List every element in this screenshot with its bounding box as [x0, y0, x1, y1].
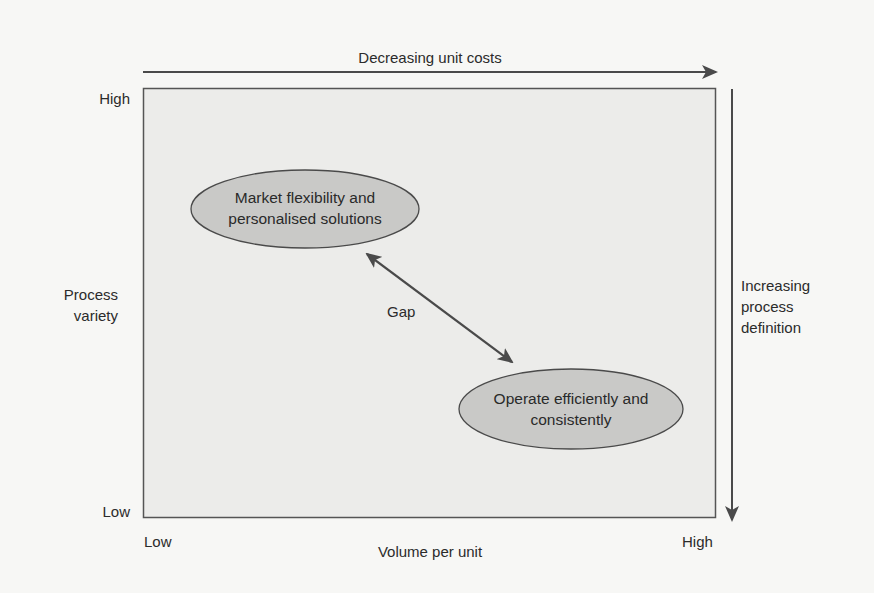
market-flexibility-line-2: personalised solutions	[195, 208, 415, 229]
y-axis-label-line-1: Process	[20, 284, 118, 305]
x-axis-low-label: Low	[144, 532, 172, 551]
diagram-canvas: Decreasing unit costs High Process varie…	[0, 0, 874, 593]
market-flexibility-text: Market flexibility and personalised solu…	[195, 187, 415, 229]
operate-efficiently-text: Operate efficiently and consistently	[461, 388, 681, 430]
gap-label: Gap	[387, 302, 415, 321]
x-axis-label: Volume per unit	[330, 542, 530, 561]
increasing-process-definition-label: Increasing process definition	[741, 275, 810, 338]
operate-efficiently-line-2: consistently	[461, 409, 681, 430]
y-axis-low-label: Low	[80, 502, 130, 521]
y-axis-label-line-2: variety	[20, 305, 118, 326]
matrix-box	[144, 89, 716, 518]
decreasing-unit-costs-label: Decreasing unit costs	[330, 48, 530, 67]
right-label-line-2: process	[741, 296, 810, 317]
operate-efficiently-line-1: Operate efficiently and	[461, 388, 681, 409]
x-axis-high-label: High	[682, 532, 713, 551]
y-axis-label: Process variety	[20, 284, 118, 326]
y-axis-high-label: High	[80, 89, 130, 108]
right-label-line-1: Increasing	[741, 275, 810, 296]
right-label-line-3: definition	[741, 317, 810, 338]
market-flexibility-line-1: Market flexibility and	[195, 187, 415, 208]
